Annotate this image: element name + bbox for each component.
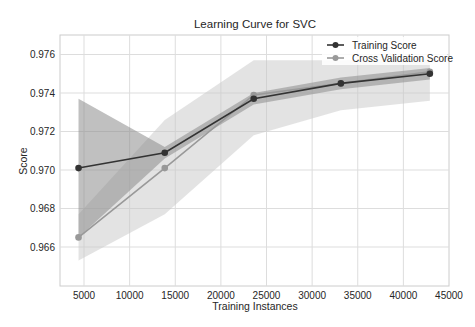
y-axis-ticks: 0.9660.9680.9700.9720.9740.976 xyxy=(30,49,55,253)
x-tick-label: 45000 xyxy=(435,290,463,301)
training-score-marker xyxy=(75,165,82,172)
x-tick-label: 30000 xyxy=(298,290,326,301)
x-tick-label: 5000 xyxy=(73,290,96,301)
legend-label-training: Training Score xyxy=(352,40,417,51)
y-tick-label: 0.966 xyxy=(30,242,55,253)
y-tick-label: 0.976 xyxy=(30,49,55,60)
chart-title: Learning Curve for SVC xyxy=(194,18,316,30)
cv-score-marker xyxy=(161,165,168,172)
y-tick-label: 0.974 xyxy=(30,88,55,99)
legend-label-cv: Cross Validation Score xyxy=(352,53,453,64)
y-axis-label: Score xyxy=(17,147,29,175)
x-tick-label: 40000 xyxy=(389,290,417,301)
training-score-marker xyxy=(427,70,434,77)
legend-marker-icon xyxy=(333,42,339,48)
x-tick-label: 15000 xyxy=(161,290,189,301)
cv-score-marker xyxy=(75,234,82,241)
legend-marker-icon xyxy=(333,55,339,61)
legend: Training ScoreCross Validation Score xyxy=(322,37,453,65)
y-tick-label: 0.972 xyxy=(30,126,55,137)
training-score-marker xyxy=(338,80,345,87)
x-axis-label: Training Instances xyxy=(212,300,297,312)
x-tick-label: 10000 xyxy=(116,290,144,301)
training-score-marker xyxy=(161,149,168,156)
learning-curve-chart: 5000100001500020000250003000035000400004… xyxy=(0,0,475,327)
training-score-marker xyxy=(250,95,257,102)
y-tick-label: 0.970 xyxy=(30,165,55,176)
x-tick-label: 35000 xyxy=(344,290,372,301)
y-tick-label: 0.968 xyxy=(30,203,55,214)
